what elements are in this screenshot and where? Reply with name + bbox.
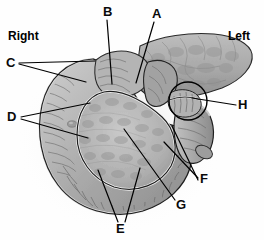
label-G: G bbox=[176, 198, 186, 211]
label-C: C bbox=[6, 56, 15, 69]
figure-canvas: Right Left A B C D E F G H bbox=[0, 0, 264, 240]
orientation-label-left: Left bbox=[228, 30, 250, 42]
label-D: D bbox=[7, 110, 16, 123]
label-A: A bbox=[152, 7, 161, 20]
label-E: E bbox=[116, 222, 125, 235]
label-H: H bbox=[238, 98, 247, 111]
anatomy-illustration bbox=[0, 0, 264, 240]
orientation-label-right: Right bbox=[8, 30, 39, 42]
label-F: F bbox=[200, 172, 208, 185]
label-B: B bbox=[103, 5, 112, 18]
